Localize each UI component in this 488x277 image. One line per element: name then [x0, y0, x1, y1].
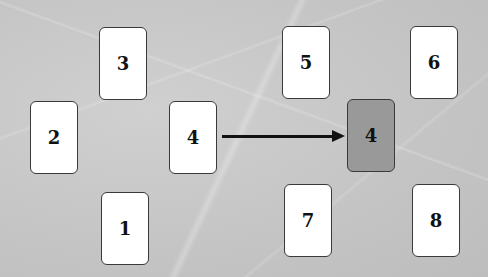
card-6: 6	[410, 26, 458, 99]
card-8: 8	[412, 184, 460, 257]
arrow-head-icon	[332, 130, 345, 142]
card-3: 3	[99, 27, 147, 100]
card-4-target: 4	[347, 99, 395, 172]
card-1: 1	[101, 192, 149, 265]
card-2: 2	[30, 101, 78, 174]
card-5: 5	[282, 26, 330, 99]
card-4-source: 4	[169, 101, 217, 174]
card-7: 7	[284, 184, 332, 257]
arrow-shaft	[222, 135, 334, 138]
